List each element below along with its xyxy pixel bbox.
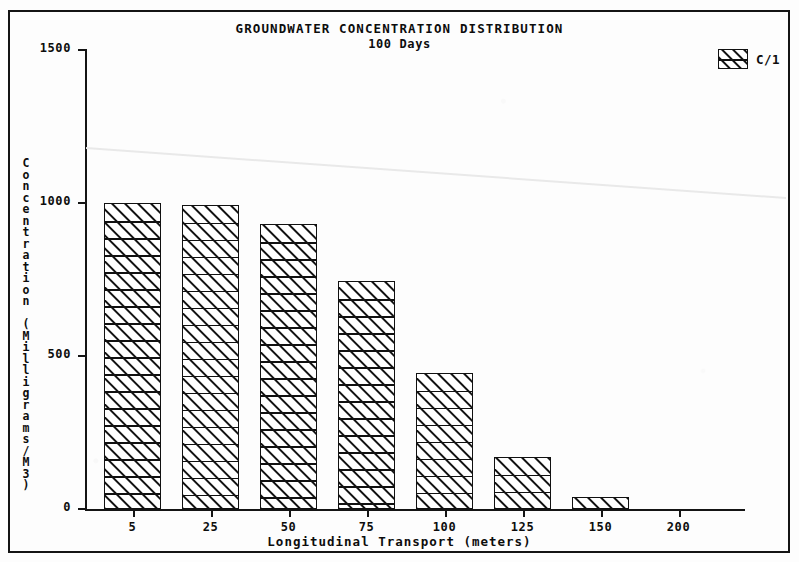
y-tick-label: 0	[63, 500, 71, 514]
y-axis-line	[85, 50, 87, 511]
x-tick	[679, 509, 681, 517]
hatch-rule	[339, 367, 394, 369]
hatch-rule	[261, 446, 316, 448]
hatch-rule	[183, 308, 238, 310]
hatch-rule	[261, 395, 316, 397]
hatch-rule	[105, 272, 160, 274]
bar-75	[338, 281, 395, 509]
chart-page: GROUNDWATER CONCENTRATION DISTRIBUTION 1…	[0, 0, 799, 562]
hatch-rule	[105, 221, 160, 223]
hatch-rule	[339, 384, 394, 386]
hatch-rule	[183, 427, 238, 429]
x-tick	[211, 509, 213, 517]
hatch-rule	[183, 478, 238, 480]
hatch-rule	[495, 492, 550, 494]
hatch-rule	[261, 344, 316, 346]
hatch-rule	[183, 257, 238, 259]
hatch-rule	[105, 476, 160, 478]
x-tick	[133, 509, 135, 517]
hatch-rule	[417, 442, 472, 444]
hatch-rule	[261, 259, 316, 261]
hatch-rule	[339, 435, 394, 437]
hatch-rule	[261, 327, 316, 329]
hatch-rule	[495, 475, 550, 477]
hatch-rule	[105, 374, 160, 376]
hatch-rule	[261, 276, 316, 278]
hatch-rule	[183, 495, 238, 497]
x-tick-label: 200	[667, 520, 690, 534]
hatch-rule	[183, 410, 238, 412]
bar-50	[260, 224, 317, 509]
bar-5	[104, 203, 161, 509]
y-tick-label: 500	[48, 347, 71, 361]
hatch-rule	[105, 340, 160, 342]
hatch-rule	[183, 342, 238, 344]
legend-hatch-rule	[719, 59, 748, 61]
bar-125	[494, 457, 551, 509]
x-axis-line	[85, 509, 745, 511]
hatch-rule	[105, 255, 160, 257]
hatch-rule	[261, 378, 316, 380]
hatch-rule	[339, 452, 394, 454]
hatch-rule	[105, 493, 160, 495]
hatch-rule	[183, 359, 238, 361]
hatch-rule	[183, 223, 238, 225]
x-axis-title: Longitudinal Transport (meters)	[0, 534, 799, 549]
hatch-rule	[105, 357, 160, 359]
x-tick	[523, 509, 525, 517]
hatch-rule	[183, 240, 238, 242]
hatch-rule	[183, 461, 238, 463]
hatch-rule	[105, 425, 160, 427]
hatch-rule	[339, 469, 394, 471]
hatch-rule	[417, 493, 472, 495]
y-axis-title-char: )	[14, 480, 38, 492]
hatch-rule	[261, 310, 316, 312]
x-tick-label: 150	[589, 520, 612, 534]
y-tick: 0	[78, 508, 87, 510]
hatch-line	[626, 497, 629, 509]
hatch-rule	[183, 274, 238, 276]
hatch-rule	[105, 289, 160, 291]
y-tick-label: 1000	[40, 194, 71, 208]
hatch-rule	[105, 323, 160, 325]
legend-swatch-hatch	[718, 49, 748, 69]
hatch-rule	[261, 412, 316, 414]
legend: C/1	[718, 49, 780, 69]
x-tick	[601, 509, 603, 517]
x-tick-label: 100	[433, 520, 456, 534]
plot-area: 150010005000 5255075100125150200	[85, 50, 745, 511]
hatch-rule	[261, 361, 316, 363]
hatch-rule	[261, 497, 316, 499]
hatch-rule	[261, 429, 316, 431]
x-tick-label: 25	[203, 520, 219, 534]
hatch-rule	[339, 418, 394, 420]
hatch-rule	[417, 425, 472, 427]
hatch-rule	[105, 459, 160, 461]
bar-100	[416, 373, 473, 509]
bar-150	[572, 497, 629, 509]
hatch-rule	[261, 242, 316, 244]
hatch-rule	[339, 333, 394, 335]
hatch-rule	[105, 442, 160, 444]
hatch-rule	[183, 291, 238, 293]
hatch-rule	[339, 401, 394, 403]
hatch-rule	[183, 444, 238, 446]
x-tick-label: 50	[281, 520, 297, 534]
y-tick: 1000	[78, 202, 87, 204]
hatch-rule	[417, 391, 472, 393]
bar-25	[182, 205, 239, 509]
hatch-rule	[339, 350, 394, 352]
y-tick: 500	[78, 355, 87, 357]
hatch-rule	[339, 299, 394, 301]
x-tick-label: 75	[359, 520, 375, 534]
y-axis-title: Concentration (Milligrams/M3)	[14, 158, 38, 492]
chart-subtitle: 100 Days	[0, 37, 799, 51]
hatch-rule	[105, 391, 160, 393]
x-tick	[367, 509, 369, 517]
legend-label: C/1	[756, 52, 780, 67]
hatch-rule	[261, 463, 316, 465]
hatch-rule	[339, 316, 394, 318]
x-tick-label: 125	[511, 520, 534, 534]
hatch-rule	[105, 408, 160, 410]
hatch-rule	[183, 376, 238, 378]
